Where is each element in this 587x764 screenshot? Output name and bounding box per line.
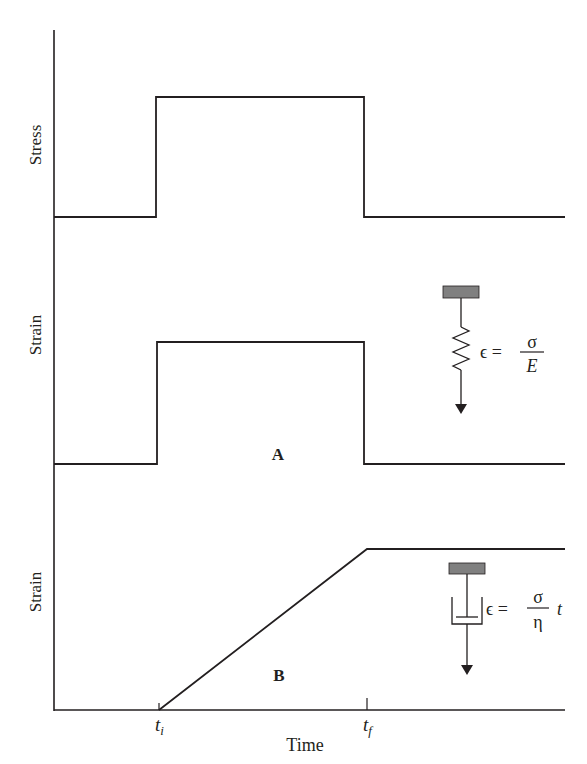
spring-equation-lhs: ϵ = <box>480 342 502 362</box>
stress-ylabel: Stress <box>26 125 45 166</box>
spring-denominator: E <box>526 356 538 376</box>
spring-numerator: σ <box>527 332 537 352</box>
panel-a-tag: A <box>272 445 285 464</box>
strain-a-ylabel: Strain <box>26 314 45 355</box>
dashpot-icon <box>449 563 485 675</box>
spring-icon <box>443 286 479 414</box>
panel-b-tag: B <box>273 666 284 685</box>
x-axis-label: Time <box>286 735 323 755</box>
strain-b-curve <box>159 549 565 710</box>
strain-b-ylabel: Strain <box>26 571 45 612</box>
dashpot-numerator: σ <box>533 587 543 607</box>
tick-label-ti: ti <box>155 714 164 738</box>
stress-curve <box>54 97 565 217</box>
dashpot-time-variable: t <box>557 599 563 619</box>
dashpot-denominator: η <box>533 612 542 632</box>
tick-label-tf: tf <box>363 714 374 738</box>
viscoelastic-diagram: Stress Strain A ϵ = σ E Strain B ϵ = σ η… <box>0 0 587 764</box>
dashpot-equation-lhs: ϵ = <box>486 599 508 619</box>
